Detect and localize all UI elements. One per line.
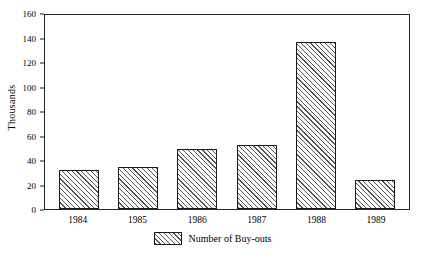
bar-slot (118, 15, 158, 209)
x-axis-tick-label-1984: 1984 (58, 213, 98, 229)
bar-chart-figure: Thousands 0 20 40 60 80 100 120 140 160 (0, 0, 425, 260)
bar-slot (355, 15, 395, 209)
x-axis-tick-label-1985: 1985 (117, 213, 157, 229)
bar-group (45, 15, 409, 209)
x-axis-tick-label-1986: 1986 (177, 213, 217, 229)
bar-1984[interactable] (59, 170, 99, 209)
x-axis-tick-label-1989: 1989 (356, 213, 396, 229)
bar-slot (237, 15, 277, 209)
legend-label: Number of Buy-outs (189, 233, 272, 245)
y-axis-tick-label: 20 (27, 181, 36, 190)
bar-1987[interactable] (237, 145, 277, 209)
y-axis-tick-label: 160 (23, 10, 37, 19)
bar-1986[interactable] (177, 149, 217, 209)
y-axis-tick-label: 120 (23, 59, 37, 68)
chart-legend: Number of Buy-outs (0, 232, 425, 245)
bar-1988[interactable] (296, 42, 336, 209)
x-axis-tick-label-1988: 1988 (296, 213, 336, 229)
bar-slot (296, 15, 336, 209)
x-axis-tick-labels: 1984 1985 1986 1987 1988 1989 (44, 213, 410, 229)
bar-slot (59, 15, 99, 209)
y-axis-tick-label: 80 (27, 108, 36, 117)
hatched-square-swatch (154, 232, 182, 245)
y-axis-tick-labels: 0 20 40 60 80 100 120 140 160 (18, 14, 40, 210)
y-axis-tick-label: 40 (27, 157, 36, 166)
plot-area (44, 14, 410, 210)
y-axis-tick-label: 60 (27, 132, 36, 141)
bar-slot (177, 15, 217, 209)
bar-1985[interactable] (118, 167, 158, 209)
x-axis-tick-label-1987: 1987 (237, 213, 277, 229)
bar-1989[interactable] (355, 180, 395, 209)
y-axis-title-text: Thousands (6, 84, 17, 130)
y-axis-tick-label: 0 (32, 206, 37, 215)
y-axis-tick-label: 100 (23, 83, 37, 92)
y-axis-tick-label: 140 (23, 34, 37, 43)
